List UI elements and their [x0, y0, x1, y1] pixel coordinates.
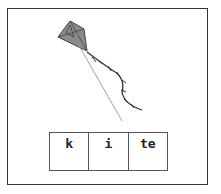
syllable-box: te: [129, 133, 167, 170]
syllable-box: k: [50, 133, 89, 170]
syllable-box: i: [89, 133, 128, 170]
syllable-boxes: k i te: [49, 132, 168, 171]
